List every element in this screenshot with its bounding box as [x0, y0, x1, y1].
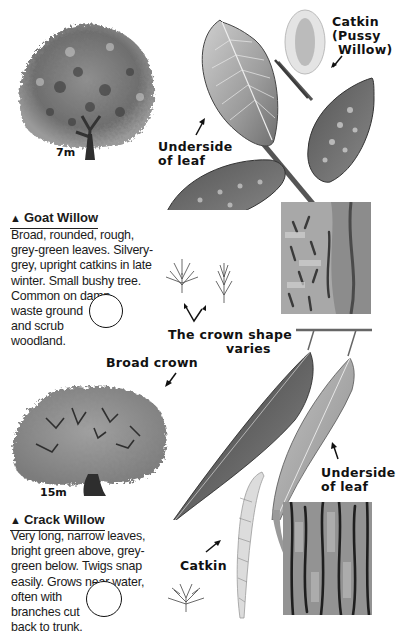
crack-willow-bark-illustration — [283, 502, 372, 615]
underside-arrow-icon — [194, 118, 206, 136]
triangle-marker-icon: ▲ — [10, 514, 21, 526]
goat-willow-description: Broad, rounded, rough, grey-green leaves… — [11, 228, 161, 350]
catkin-arrow-icon — [330, 55, 344, 69]
crack-willow-description: Very long, narrow leaves, bright green a… — [11, 529, 161, 635]
goat-willow-title: ▲Goat Willow — [10, 208, 98, 229]
crack-willow-height-label: 15m — [40, 486, 67, 499]
goat-willow-underside-label: Underside of leaf — [158, 140, 233, 168]
crack-willow-catkin-label: Catkin — [180, 559, 227, 573]
goat-willow-spotted-checkbox[interactable] — [89, 294, 123, 328]
triangle-marker-icon: ▲ — [10, 212, 21, 224]
crack-willow-tree-illustration — [6, 378, 174, 500]
goat-willow-bark-illustration — [281, 202, 371, 314]
crown-shape-sketches-illustration — [162, 255, 242, 327]
crack-willow-catkin-illustration — [226, 468, 266, 620]
goat-willow-height-label: 7m — [56, 146, 75, 159]
underside-arrow-icon — [331, 442, 341, 460]
crack-willow-title: ▲Crack Willow — [10, 510, 105, 531]
goat-willow-catkin-label: Catkin (Pussy Willow) — [332, 15, 393, 57]
crack-willow-crown-sketch-illustration — [166, 580, 206, 614]
catkin-arrow-icon — [204, 540, 222, 554]
goat-willow-tree-illustration — [10, 12, 160, 162]
crack-willow-underside-label: Underside of leaf — [321, 466, 396, 494]
crack-willow-spotted-checkbox[interactable] — [86, 581, 122, 617]
